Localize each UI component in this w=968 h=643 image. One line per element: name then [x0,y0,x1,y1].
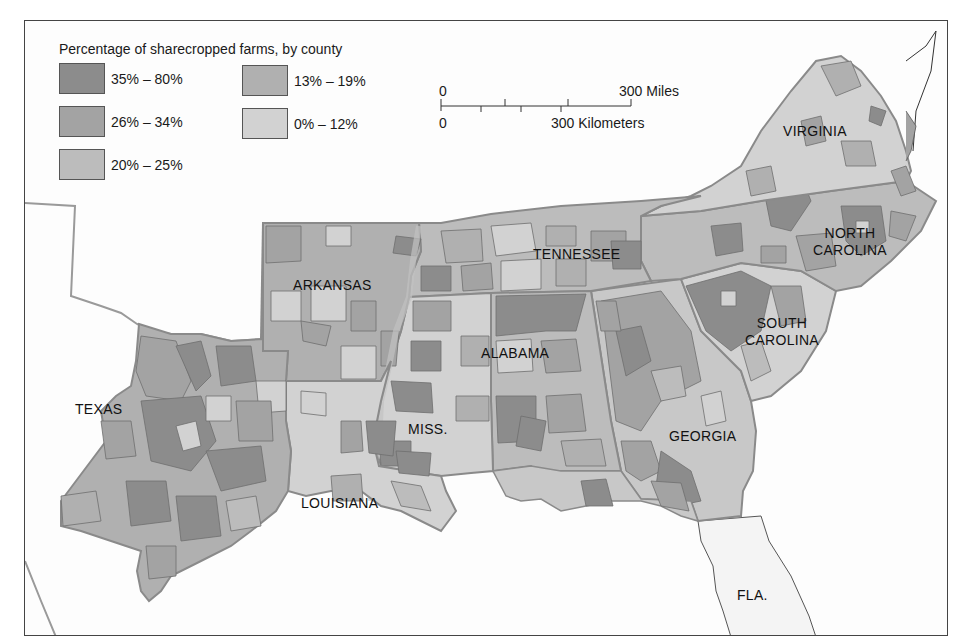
legend-swatch [242,108,288,139]
state-label-texas: TEXAS [75,401,122,418]
legend-swatch [59,63,105,94]
state-label-alabama: ALABAMA [481,345,549,362]
state-label-tennessee: TENNESSEE [533,246,621,263]
label-line: CAROLINA [813,242,887,259]
state-label-florida: FLA. [737,587,768,604]
label-line: SOUTH [745,315,819,332]
scale-km-end: 300 Kilometers [551,115,644,131]
state-label-arkansas: ARKANSAS [293,277,372,294]
legend-label: 26% – 34% [111,114,183,130]
label-line: NORTH [813,225,887,242]
state-texas [61,324,291,601]
state-label-louisiana: LOUISIANA [301,495,378,512]
state-alabama [491,291,621,476]
legend-label: 13% – 19% [294,73,366,89]
map-frame: Percentage of sharecropped farms, by cou… [24,20,948,636]
legend-item-35-80: 35% – 80% [59,63,183,94]
scale-ruler [439,97,639,117]
state-label-south-carolina: SOUTH CAROLINA [745,315,819,349]
state-label-georgia: GEORGIA [669,428,736,445]
scale-bar: 0 300 Miles 0 300 Kilometers [439,83,649,143]
florida-region [698,516,816,636]
legend-label: 20% – 25% [111,157,183,173]
state-label-mississippi: MISS. [408,421,448,438]
scale-km-start: 0 [439,115,447,131]
legend-swatch [242,65,288,96]
state-label-virginia: VIRGINIA [783,123,847,140]
legend-swatch [59,149,105,180]
legend-label: 35% – 80% [111,71,183,87]
state-label-north-carolina: NORTH CAROLINA [813,225,887,259]
label-line: CAROLINA [745,332,819,349]
legend-label: 0% – 12% [294,116,358,132]
legend-swatch [59,106,105,137]
legend-item-0-12: 0% – 12% [242,108,358,139]
legend-title: Percentage of sharecropped farms, by cou… [59,41,342,57]
legend-item-13-19: 13% – 19% [242,65,366,96]
legend-item-20-25: 20% – 25% [59,149,183,180]
legend-item-26-34: 26% – 34% [59,106,183,137]
